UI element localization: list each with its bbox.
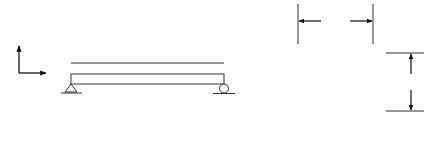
figure-canvas	[0, 0, 444, 162]
coordinate-axes	[19, 46, 46, 73]
beam	[71, 74, 224, 84]
thickness-dimension	[386, 53, 424, 111]
roller-support-icon	[213, 84, 235, 94]
width-dimension	[298, 4, 373, 44]
pin-support-icon	[61, 84, 82, 93]
